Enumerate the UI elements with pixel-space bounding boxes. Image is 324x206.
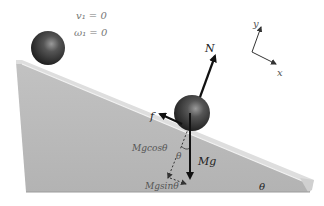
gravity-sin-label: Mgsinθ xyxy=(144,181,179,191)
incline-wedge xyxy=(16,60,314,192)
incline-face xyxy=(16,62,312,192)
ball-initial xyxy=(31,31,65,65)
x-axis-arrow xyxy=(252,52,276,64)
incline-angle-label: θ xyxy=(259,181,265,192)
x-axis-label: x xyxy=(277,67,283,78)
velocity-label: v₁ = 0 xyxy=(76,10,107,21)
force-angle-label: θ xyxy=(176,151,182,161)
normal-force-label: N xyxy=(204,42,215,55)
y-axis-label: y xyxy=(252,18,259,29)
gravity-label: Mg xyxy=(197,155,216,168)
diagram-canvas: v₁ = 0 ω₁ = 0 y x N f Mg Mgcosθ Mgsinθ θ xyxy=(0,0,324,206)
y-axis-arrow xyxy=(252,27,261,52)
ball-rolling xyxy=(174,95,210,131)
coordinate-axes: y x xyxy=(252,18,283,78)
gravity-cos-label: Mgcosθ xyxy=(131,143,168,153)
angular-velocity-label: ω₁ = 0 xyxy=(74,27,108,38)
incline-diagram: v₁ = 0 ω₁ = 0 y x N f Mg Mgcosθ Mgsinθ θ xyxy=(0,0,324,206)
